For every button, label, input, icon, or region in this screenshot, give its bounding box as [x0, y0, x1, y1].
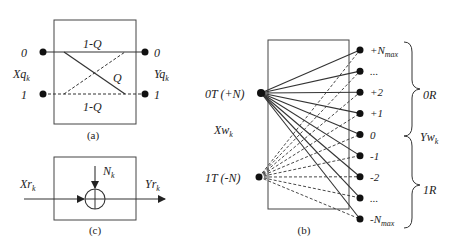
output-port-label: ...: [370, 65, 378, 77]
group-label-1r: 1R: [423, 183, 437, 197]
edge-1t-to-output: [259, 113, 360, 177]
edge-0t-to-output: [261, 92, 360, 93]
edge-0t-to-output: [261, 93, 360, 135]
caption-b: (b): [298, 224, 311, 237]
group-label-0r: 0R: [423, 88, 437, 102]
output-port-dot: [357, 68, 364, 75]
output-port-label: ...: [370, 192, 378, 204]
output-port-label: +2: [370, 86, 383, 98]
output-port-label: -2: [370, 171, 380, 183]
output-port-label: +1: [370, 107, 383, 119]
edge-1t-to-output: [259, 177, 360, 198]
diagram-canvas: 1-Q Q 1-Q 0 1 Xqk 0 1 Yqk (a) Xrk Nk Yrk…: [0, 0, 456, 251]
noise-label-n: Nk: [102, 164, 115, 180]
right-port-label-0: 0: [154, 46, 160, 60]
output-label-yq: Yqk: [154, 67, 169, 83]
panel-b-output-labels: +Nmax...+2+10-1-2...-Nmax: [370, 44, 399, 228]
brace-upper: [404, 42, 420, 136]
brace-lower: [404, 136, 420, 228]
caption-a: (a): [87, 129, 100, 142]
edge-label-q: Q: [113, 71, 122, 85]
panel-b: +Nmax...+2+10-1-2...-Nmax 0T (+N) 1T (-N…: [205, 40, 439, 237]
port-right-0: [142, 49, 149, 56]
port-left-0: [40, 49, 47, 56]
edge-label-top: 1-Q: [83, 37, 102, 51]
left-port-label-1: 1: [21, 88, 27, 102]
output-label-yr: Yrk: [145, 177, 160, 193]
output-port-dot: [357, 152, 364, 159]
caption-c: (c): [89, 224, 102, 237]
panel-b-edges: [259, 50, 360, 219]
output-port-label: -Nmax: [370, 213, 395, 228]
port-right-1: [142, 91, 149, 98]
output-port-dot: [357, 89, 364, 96]
output-label-yw: Ywk: [420, 130, 439, 146]
port-1t: [256, 174, 263, 181]
output-port-label: 0: [370, 129, 376, 141]
edge-0t-to-output: [261, 93, 360, 177]
output-port-dot: [357, 194, 364, 201]
input-label-xq: Xqk: [12, 67, 30, 83]
edge-1t-to-output: [259, 156, 360, 177]
edge-0t-to-output: [261, 93, 360, 198]
edge-label-bottom: 1-Q: [83, 100, 102, 114]
input-label-xw: Xwk: [213, 123, 233, 139]
edge-1t-to-output: [259, 135, 360, 178]
port-left-1: [40, 91, 47, 98]
panel-c: Xrk Nk Yrk (c): [19, 157, 165, 237]
output-port-dot: [357, 131, 364, 138]
left-port-label-1t: 1T (-N): [205, 171, 240, 185]
output-port-dot: [357, 47, 364, 54]
output-port-dot: [357, 110, 364, 117]
output-port-label: -1: [370, 150, 379, 162]
port-0t: [257, 89, 265, 97]
output-port-dot: [357, 173, 364, 180]
panel-b-dots: [357, 47, 364, 223]
input-label-xr: Xrk: [19, 177, 36, 193]
right-port-label-1: 1: [154, 88, 160, 102]
output-port-dot: [357, 216, 364, 223]
edge-1t-to-output: [259, 177, 360, 219]
edge-0t-to-output: [261, 93, 360, 113]
edge-0t-to-output: [261, 71, 360, 93]
edge-0t-to-output: [261, 50, 360, 93]
output-port-label: +Nmax: [370, 44, 399, 59]
panel-a: 1-Q Q 1-Q 0 1 Xqk 0 1 Yqk (a): [12, 20, 169, 142]
left-port-label-0: 0: [21, 46, 27, 60]
left-port-label-0t: 0T (+N): [205, 87, 245, 101]
